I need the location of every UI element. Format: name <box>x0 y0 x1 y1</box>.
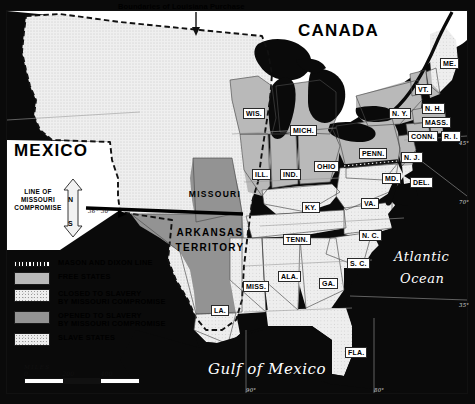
legend-text-line2: BY MISSOURI COMPROMISE <box>58 298 166 307</box>
historical-map: Boundaries of Louisiana Purchase MEXICO … <box>0 0 475 404</box>
legend-text-line1: FREE STATES <box>58 273 111 282</box>
latitude-36-30-label: 36° 30' <box>88 208 110 214</box>
scale-tick-400: 400 <box>101 370 113 377</box>
state-label-md: MD. <box>382 173 401 184</box>
coordinate-label-90: 90° <box>246 387 256 393</box>
state-label-nc: N. C. <box>359 230 382 241</box>
canada-label: CANADA <box>298 22 379 39</box>
missouri-compromise-line-label: LINE OF MISSOURI COMPROMISE <box>12 188 64 212</box>
coordinate-label-35: 35° <box>459 302 469 308</box>
state-label-mass: MASS. <box>422 117 451 128</box>
scale-tick-0: 0 <box>24 370 28 377</box>
state-label-ri: R. I. <box>441 131 461 142</box>
legend-text-closed: CLOSED TO SLAVERYBY MISSOURI COMPROMISE <box>58 289 166 307</box>
legend-swatch-slave <box>14 333 50 346</box>
legend-item-free: FREE STATES <box>14 272 194 285</box>
state-label-conn: CONN. <box>408 131 438 142</box>
legend-text-slave: SLAVE STATES <box>58 333 115 343</box>
coordinate-label-45: 45° <box>459 140 469 146</box>
state-label-ohio: OHIO <box>314 161 339 172</box>
legend-text-mason-dixon-dashes: MASON AND DIXON LINE <box>58 258 153 268</box>
state-label-ky: KY. <box>302 202 320 213</box>
state-label-nj: N. J. <box>401 152 423 163</box>
scale-tick-labels: 0200400 <box>24 370 140 378</box>
legend-swatch-opened <box>14 311 50 324</box>
mc-line-1: LINE OF <box>12 188 64 196</box>
gulf-of-mexico-label: Gulf of Mexico <box>208 362 326 377</box>
legend-text-line1: SLAVE STATES <box>58 334 115 343</box>
state-label-la: LA. <box>211 305 229 316</box>
state-label-del: DEL. <box>410 177 433 188</box>
state-label-va: VA. <box>361 198 379 209</box>
legend-swatch-mason-dixon-line <box>14 261 50 267</box>
legend-item-opened: OPENED TO SLAVERYBY MISSOURI COMPROMISE <box>14 311 194 329</box>
state-label-ala: ALA. <box>278 271 301 282</box>
compass-north-label: N <box>68 196 73 203</box>
mexico-label: MEXICO <box>14 142 88 159</box>
coordinate-label-70: 70° <box>459 199 469 205</box>
legend-swatch-free <box>14 272 50 285</box>
state-label-penn: PENN. <box>359 148 387 159</box>
state-label-vt: VT. <box>415 84 432 95</box>
compass-rose <box>60 178 86 238</box>
state-label-ind: IND. <box>280 169 301 180</box>
legend-item-mason-dixon-dashes: MASON AND DIXON LINE <box>14 258 194 268</box>
scale-bar: MILES 0200400 <box>24 364 140 384</box>
state-label-mich: MICH. <box>290 125 317 136</box>
atlantic-ocean-label-line2: Ocean <box>400 272 444 285</box>
state-label-ga: GA. <box>319 278 338 289</box>
arkansas-territory-label-line1: ARKANSAS <box>158 228 262 238</box>
map-legend: MASON AND DIXON LINEFREE STATESCLOSED TO… <box>14 258 194 350</box>
arkansas-territory-label-line2: TERRITORY <box>158 243 262 253</box>
scale-tick-200: 200 <box>62 370 74 377</box>
state-label-fla: FLA. <box>345 347 367 358</box>
missouri-label: MISSOURI <box>183 190 247 199</box>
legend-text-free: FREE STATES <box>58 272 111 282</box>
state-label-wis: WIS. <box>243 108 265 119</box>
legend-text-line1: MASON AND DIXON LINE <box>58 259 153 268</box>
legend-text-opened: OPENED TO SLAVERYBY MISSOURI COMPROMISE <box>58 311 166 329</box>
scale-bar-graphic <box>24 378 140 384</box>
coordinate-label-80: 80° <box>374 387 384 393</box>
legend-swatch-closed <box>14 289 50 302</box>
compass-south-label: S <box>68 220 73 227</box>
legend-text-line2: BY MISSOURI COMPROMISE <box>58 320 166 329</box>
louisiana-purchase-note: Boundaries of Louisiana Purchase <box>118 2 245 11</box>
atlantic-ocean-label-line1: Atlantic <box>394 250 449 263</box>
state-label-ny: N. Y. <box>389 108 411 119</box>
state-label-sc: S. C. <box>347 258 370 269</box>
legend-item-closed: CLOSED TO SLAVERYBY MISSOURI COMPROMISE <box>14 289 194 307</box>
legend-item-slave: SLAVE STATES <box>14 333 194 346</box>
state-label-me: ME. <box>440 58 459 69</box>
state-label-nh: N. H. <box>422 103 445 114</box>
state-label-miss: MISS. <box>243 281 269 292</box>
state-label-tenn: TENN. <box>283 234 311 245</box>
state-label-ill: ILL. <box>252 169 271 180</box>
mc-line-2: MISSOURI <box>12 196 64 204</box>
mc-line-3: COMPROMISE <box>12 204 64 212</box>
